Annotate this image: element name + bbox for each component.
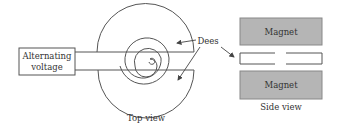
- upper-magnet-label: Magnet: [264, 27, 298, 37]
- voltage-label-line2: voltage: [30, 62, 63, 72]
- arrow-to-side-dees: [221, 47, 234, 57]
- upper-dee: [97, 4, 194, 52]
- dees-label: Dees: [197, 36, 218, 46]
- dees-annotation: Dees: [177, 36, 234, 80]
- cyclotron-diagram: Alternating voltage Top view Dees Magnet: [0, 0, 337, 130]
- lower-magnet-label: Magnet: [264, 80, 298, 90]
- alternating-voltage-source: Alternating voltage: [19, 48, 75, 75]
- top-view-label: Top view: [127, 113, 166, 123]
- voltage-label-line1: Alternating: [22, 51, 73, 61]
- top-view: Top view: [97, 4, 194, 123]
- side-view-label: Side view: [260, 102, 302, 112]
- particle-spiral-path: [120, 38, 169, 84]
- connection-wires: [75, 52, 98, 70]
- side-view: Magnet Magnet Side view: [240, 18, 322, 112]
- side-dees: [240, 53, 322, 64]
